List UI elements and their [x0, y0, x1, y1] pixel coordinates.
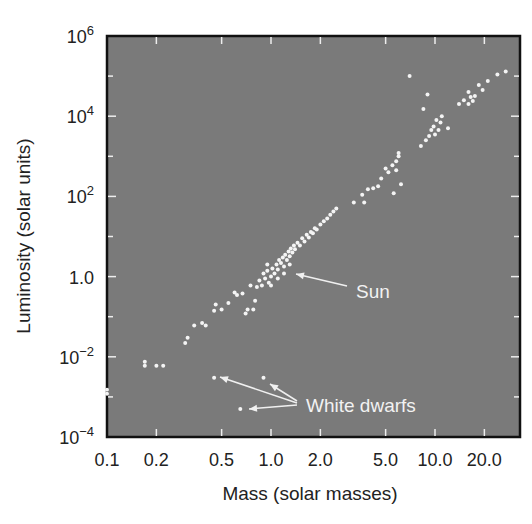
data-point — [279, 261, 283, 265]
x-axis-title: Mass (solar masses) — [222, 483, 397, 504]
data-point — [161, 364, 165, 368]
data-point — [467, 90, 471, 94]
data-point — [251, 308, 255, 312]
data-point — [427, 134, 431, 138]
data-point — [481, 88, 485, 92]
data-point — [457, 102, 461, 106]
x-tick-label: 0.5 — [209, 450, 234, 470]
x-tick-label: 5.0 — [373, 450, 398, 470]
data-point — [325, 217, 329, 221]
data-point — [419, 144, 423, 148]
data-point — [186, 336, 190, 340]
y-tick-label: 106 — [67, 23, 94, 47]
data-point — [298, 243, 302, 247]
data-point — [290, 251, 294, 255]
data-point — [432, 125, 436, 129]
data-point — [241, 292, 245, 296]
data-point — [303, 240, 307, 244]
y-tick-label: 10−4 — [59, 424, 94, 448]
data-point — [192, 324, 196, 328]
data-point — [371, 186, 375, 190]
data-point — [257, 279, 261, 283]
data-point — [276, 276, 280, 280]
data-point — [288, 254, 292, 258]
data-point — [376, 184, 380, 188]
data-point — [397, 151, 401, 155]
x-tick-label: 0.1 — [94, 450, 119, 470]
data-point — [467, 102, 471, 106]
data-point — [504, 70, 508, 74]
y-tick-label: 104 — [67, 103, 94, 127]
data-point — [433, 133, 437, 137]
data-point — [311, 231, 315, 235]
data-point — [408, 74, 412, 78]
data-point — [289, 247, 293, 251]
data-point — [471, 99, 475, 103]
data-point — [183, 341, 187, 345]
data-point — [154, 364, 158, 368]
data-point — [285, 258, 289, 262]
data-point — [439, 120, 443, 124]
data-point — [315, 227, 319, 231]
data-point — [288, 263, 292, 267]
data-point — [446, 126, 450, 130]
y-tick-label: 102 — [67, 183, 94, 207]
data-point — [352, 201, 356, 205]
data-point — [283, 253, 287, 257]
data-point — [331, 210, 335, 214]
data-point — [105, 392, 109, 396]
data-point — [366, 187, 370, 191]
data-point — [293, 247, 297, 251]
data-point — [269, 275, 273, 279]
data-point — [379, 177, 383, 181]
data-point — [276, 268, 280, 272]
x-tick-label: 2.0 — [308, 450, 333, 470]
data-point — [220, 308, 224, 312]
data-point — [260, 284, 264, 288]
data-point — [328, 213, 332, 217]
data-point — [265, 263, 269, 267]
data-point — [307, 235, 311, 239]
data-point — [434, 118, 438, 122]
data-point — [292, 243, 296, 247]
data-point — [105, 388, 109, 392]
data-point — [362, 201, 366, 205]
data-point — [212, 309, 216, 313]
data-point — [318, 222, 322, 226]
data-point — [212, 376, 216, 380]
x-tick-label: 0.2 — [144, 450, 169, 470]
data-point — [235, 293, 239, 297]
data-point — [269, 284, 273, 288]
data-point — [214, 303, 218, 307]
y-tick-label: 10−2 — [59, 344, 94, 368]
data-point — [200, 321, 204, 325]
data-point — [462, 98, 466, 102]
sun-annotation: Sun — [356, 281, 390, 302]
plot-area — [107, 36, 520, 437]
y-axis-title: Luminosity (solar units) — [13, 138, 34, 333]
data-point — [143, 360, 147, 364]
data-point — [300, 236, 304, 240]
data-point — [360, 193, 364, 197]
data-point — [421, 107, 425, 111]
data-point — [282, 271, 286, 275]
data-point — [429, 128, 433, 132]
data-point — [246, 308, 250, 312]
white-dwarfs-annotation: White dwarfs — [306, 395, 416, 416]
data-point — [253, 299, 257, 303]
data-point — [275, 263, 279, 267]
y-tick-label: 1.0 — [69, 268, 94, 288]
data-point — [226, 301, 230, 305]
data-point — [238, 407, 242, 411]
data-point — [440, 114, 444, 118]
mass-luminosity-chart: 0.10.20.51.02.05.010.020.0 1061041021.01… — [0, 0, 532, 524]
data-point — [473, 94, 477, 98]
data-point — [273, 271, 277, 275]
data-point — [263, 276, 267, 280]
data-point — [477, 83, 481, 87]
data-point — [486, 79, 490, 83]
data-point — [469, 95, 473, 99]
data-point — [390, 163, 394, 167]
data-point — [265, 269, 269, 273]
data-point — [437, 128, 441, 132]
